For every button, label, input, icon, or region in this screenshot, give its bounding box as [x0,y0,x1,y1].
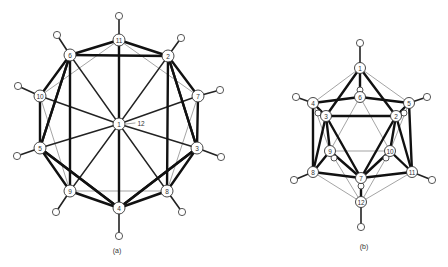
b-atom-12-label: 12 [357,199,365,206]
b-atom-1-label: 1 [117,121,121,128]
b-atom-3-label: 3 [324,113,328,120]
h-atom-8 [290,176,297,183]
front-bond [197,96,198,148]
b-atom-2-label: 2 [166,53,170,60]
center-bond-3 [119,124,197,148]
panel-b-diagram: 123456789101112 [290,39,435,230]
h-atom-11 [115,12,122,19]
front-bond [119,148,197,208]
h-atom-3 [217,153,224,160]
h-atom-4 [292,93,299,100]
front-bond [40,148,119,208]
b-atom-11-label: 11 [409,169,416,176]
b-atom-9-label: 9 [328,148,332,155]
front-bond [361,172,412,178]
front-bond [168,56,197,148]
panel-a-diagram: 116210753984112 [13,12,224,239]
front-bond [167,148,197,191]
h-atom-7 [216,86,223,93]
b-atom-9-label: 9 [68,188,72,195]
b-atom-4-label: 4 [311,100,315,107]
h-atom-6 [53,31,60,38]
b-atom-7-label: 7 [359,175,363,182]
b-atom-8-label: 8 [165,188,169,195]
b-atom-1-label: 1 [358,65,362,72]
h-atom-back-1 [401,110,407,116]
center-bond-2 [119,56,168,124]
b-atom-10-label: 10 [36,93,44,100]
h-atom-5 [423,93,430,100]
b-atom-11-label: 11 [116,37,123,44]
front-bond [70,55,168,56]
front-bond [119,191,167,208]
b-atom-5-label: 5 [38,145,42,152]
center-bond-5 [40,124,119,148]
h-atom-5 [13,152,20,159]
b-atom-2-label: 2 [394,113,398,120]
front-bond [360,68,396,116]
b-atom-5-label: 5 [407,100,411,107]
h-atom-2 [177,34,184,41]
h-atom-12 [357,223,364,230]
b-atom-6-label: 6 [358,94,362,101]
b-atom-12-label: 12 [137,120,145,127]
h-atom-4 [115,232,122,239]
back-bond [360,97,390,151]
center-bond-8 [119,124,167,191]
b-atom-10-label: 10 [386,148,394,155]
front-bond [40,148,70,191]
center-bond-9 [70,124,119,191]
label-leader-12 [126,123,135,124]
b-atom-3-label: 3 [195,145,199,152]
front-bond [326,68,360,116]
front-bond [40,55,70,148]
h-atom-8 [178,208,185,215]
center-bond-6 [70,55,119,124]
h-atom-10 [14,82,21,89]
icosahedron-figure: 116210753984112 123456789101112 (a) (b) [0,0,448,267]
b-atom-6-label: 6 [68,52,72,59]
caption-b: (b) [360,243,369,251]
h-atom-11 [428,176,435,183]
front-bond [70,191,119,208]
b-atom-8-label: 8 [311,169,315,176]
front-bond [168,56,198,96]
front-bond [70,40,119,55]
h-atom-9 [52,208,59,215]
caption-a: (a) [113,247,122,255]
b-atom-4-label: 4 [117,205,121,212]
front-bond [119,40,168,56]
front-bond [40,55,70,96]
h-atom-1 [356,39,363,46]
h-atom-back-0 [315,110,321,116]
b-atom-7-label: 7 [196,93,200,100]
